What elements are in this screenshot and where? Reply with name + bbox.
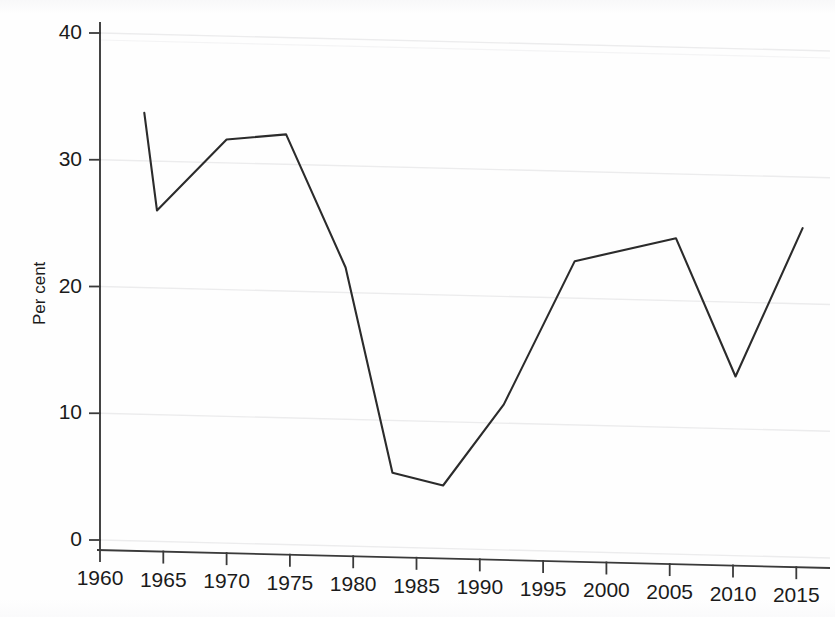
gridline bbox=[100, 160, 830, 178]
x-axis-tick-label: 2010 bbox=[699, 582, 767, 606]
y-axis-tick-label: 20 bbox=[59, 274, 82, 298]
gridline bbox=[100, 540, 830, 558]
gridlines bbox=[100, 33, 830, 558]
y-axis-tick-label: 0 bbox=[70, 527, 82, 551]
x-axis-tick-label: 2000 bbox=[572, 578, 640, 602]
x-axis-tick-label: 1980 bbox=[319, 572, 387, 596]
x-axis-tick-label: 1965 bbox=[129, 568, 197, 592]
y-axis-tick-label: 30 bbox=[59, 147, 82, 171]
x-axis-tick-label: 1975 bbox=[256, 571, 324, 595]
chart-figure: 010203040 196019651970197519801985199019… bbox=[0, 0, 835, 617]
x-axis-tick-label: 2015 bbox=[762, 583, 830, 607]
y-axis-tick-label: 40 bbox=[59, 20, 82, 44]
x-axis-tick-label: 1970 bbox=[193, 569, 261, 593]
x-axis-tick-label: 1990 bbox=[446, 575, 514, 599]
y-axis-label: Per cent bbox=[30, 261, 50, 324]
x-axis-tick-label: 1995 bbox=[509, 577, 577, 601]
gridline bbox=[100, 413, 830, 431]
gridline bbox=[100, 33, 830, 51]
x-axis-tick-label: 2005 bbox=[636, 580, 704, 604]
gridline bbox=[100, 287, 830, 305]
x-axis-line bbox=[97, 550, 830, 568]
y-axis-tick-label: 10 bbox=[59, 400, 82, 424]
x-axis-tick-label: 1960 bbox=[66, 566, 134, 590]
x-axis-tick-label: 1985 bbox=[383, 574, 451, 598]
line-chart-plot bbox=[0, 0, 835, 617]
x-axis-spine bbox=[97, 550, 830, 568]
